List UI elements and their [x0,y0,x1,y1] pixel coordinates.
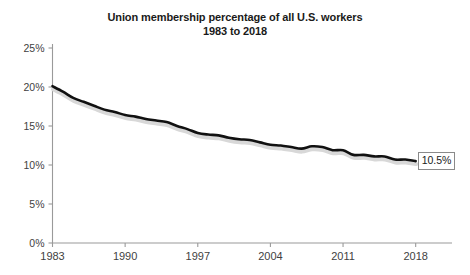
line-shadow [53,89,416,164]
x-tick-label: 1990 [113,250,137,262]
chart-container: Union membership percentage of all U.S. … [0,0,470,275]
tick-marks-group [49,48,416,247]
y-tick-label: 25% [0,42,45,54]
end-value-callout: 10.5% [418,152,456,170]
x-tick-label: 2011 [331,250,355,262]
x-tick-label: 2018 [403,250,427,262]
y-tick-label: 10% [0,159,45,171]
plot-area [0,0,470,275]
x-tick-label: 1997 [186,250,210,262]
y-tick-label: 15% [0,120,45,132]
data-line-union-membership [53,86,416,161]
y-tick-label: 20% [0,81,45,93]
y-tick-label: 5% [0,198,45,210]
x-tick-label: 1983 [40,250,64,262]
y-tick-label: 0% [0,237,45,249]
x-tick-label: 2004 [258,250,282,262]
